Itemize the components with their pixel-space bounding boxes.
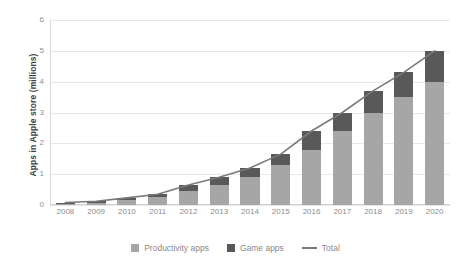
gridline — [50, 143, 450, 144]
y-axis-line — [50, 20, 51, 205]
bar-segment-productivity — [425, 82, 444, 205]
bar-column — [148, 194, 167, 205]
x-axis-tick-label: 2011 — [142, 207, 173, 217]
x-axis-tick-label: 2008 — [50, 207, 81, 217]
legend-swatch-icon — [131, 244, 139, 252]
bar-segment-game — [333, 113, 352, 132]
bar-segment-game — [240, 168, 259, 177]
bar-segment-game — [56, 203, 75, 204]
bar-segment-productivity — [179, 191, 198, 205]
bar-column — [240, 168, 259, 205]
bar-segment-game — [425, 51, 444, 82]
gridline — [50, 113, 450, 114]
legend-item[interactable]: Game apps — [227, 243, 284, 253]
x-axis-tick-labels: 2008200920102011201220132014201520162017… — [50, 207, 450, 221]
legend-swatch-icon — [227, 244, 235, 252]
bar-segment-productivity — [56, 203, 75, 205]
bar-segment-productivity — [240, 177, 259, 205]
bar-column — [179, 185, 198, 205]
gridline — [50, 82, 450, 83]
bar-segment-game — [394, 72, 413, 97]
bar-segment-game — [148, 194, 167, 197]
x-axis-tick-label: 2013 — [204, 207, 235, 217]
y-axis-tick-label: 6 — [28, 16, 44, 24]
x-axis-tick-label: 2012 — [173, 207, 204, 217]
y-axis-tick-label: 4 — [28, 78, 44, 86]
y-axis-tick-label: 3 — [28, 109, 44, 117]
x-axis-tick-label: 2010 — [112, 207, 143, 217]
bar-segment-productivity — [364, 113, 383, 206]
bar-column — [271, 154, 290, 205]
legend-item-label: Total — [322, 243, 340, 253]
bar-segment-game — [87, 201, 106, 202]
y-axis-tick-label: 2 — [28, 139, 44, 147]
bar-segment-game — [210, 177, 229, 185]
legend-line-marker-icon — [302, 247, 317, 249]
x-axis-tick-label: 2018 — [358, 207, 389, 217]
bar-segment-productivity — [302, 150, 321, 206]
plot-area — [50, 20, 450, 205]
x-axis-tick-label: 2016 — [296, 207, 327, 217]
legend-item[interactable]: Total — [302, 243, 340, 253]
x-axis-tick-label: 2014 — [235, 207, 266, 217]
bar-segment-game — [179, 185, 198, 191]
gridline — [50, 51, 450, 52]
bar-column — [364, 91, 383, 205]
x-axis-tick-label: 2017 — [327, 207, 358, 217]
bar-segment-productivity — [271, 165, 290, 205]
bar-segment-productivity — [87, 203, 106, 205]
y-axis-tick-label: 1 — [28, 170, 44, 178]
bar-column — [117, 198, 136, 205]
bar-segment-productivity — [333, 131, 352, 205]
chart-container: Apps in Apple store (millions) 0123456 2… — [0, 0, 471, 277]
bar-segment-productivity — [117, 200, 136, 205]
gridline — [50, 205, 450, 206]
bar-column — [302, 131, 321, 205]
bar-segment-game — [302, 131, 321, 150]
bar-column — [425, 51, 444, 205]
x-axis-tick-label: 2019 — [388, 207, 419, 217]
x-axis-tick-label: 2020 — [419, 207, 450, 217]
bar-segment-productivity — [148, 197, 167, 205]
x-axis-tick-label: 2015 — [265, 207, 296, 217]
bar-segment-game — [271, 154, 290, 165]
bar-column — [394, 72, 413, 205]
y-axis-tick-label: 5 — [28, 47, 44, 55]
chart-legend: Productivity appsGame appsTotal — [0, 243, 471, 253]
bar-column — [56, 203, 75, 205]
bar-segment-game — [117, 198, 136, 200]
bar-segment-productivity — [210, 185, 229, 205]
bar-segment-game — [364, 91, 383, 113]
bar-column — [87, 201, 106, 205]
gridline — [50, 20, 450, 21]
bar-column — [333, 113, 352, 206]
bar-column — [210, 177, 229, 205]
bar-segment-productivity — [394, 97, 413, 205]
legend-item-label: Game apps — [240, 243, 284, 253]
x-axis-tick-label: 2009 — [81, 207, 112, 217]
legend-item[interactable]: Productivity apps — [131, 243, 209, 253]
y-axis-tick-label: 0 — [28, 201, 44, 209]
legend-item-label: Productivity apps — [144, 243, 209, 253]
